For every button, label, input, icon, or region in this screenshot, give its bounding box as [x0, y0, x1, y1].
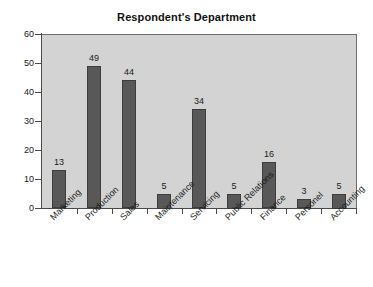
y-axis-tick — [35, 92, 41, 93]
y-axis-tick — [35, 179, 41, 180]
x-axis-tick — [216, 209, 217, 214]
x-axis-tick — [286, 209, 287, 214]
y-axis-tick-label: 40 — [24, 88, 34, 97]
bar — [122, 80, 136, 208]
y-axis-tick — [35, 150, 41, 151]
y-axis-tick-label: 10 — [24, 175, 34, 184]
y-axis-tick — [35, 208, 41, 209]
x-axis-tick — [77, 209, 78, 214]
y-axis-tick — [35, 121, 41, 122]
chart-title: Respondent's Department — [0, 11, 373, 23]
bar-value-label: 5 — [218, 182, 250, 191]
x-axis-tick — [182, 209, 183, 214]
bar-value-label: 5 — [148, 182, 180, 191]
bar-value-label: 5 — [323, 182, 355, 191]
y-axis-tick-label: 50 — [24, 59, 34, 68]
y-axis-tick-label: 60 — [24, 30, 34, 39]
x-axis-tick — [251, 209, 252, 214]
x-axis-tick — [321, 209, 322, 214]
x-axis-tick — [147, 209, 148, 214]
y-axis-tick-label: 0 — [29, 204, 34, 213]
y-axis-line — [41, 33, 42, 209]
y-axis-tick-label: 20 — [24, 146, 34, 155]
y-axis-tick-label: 30 — [24, 117, 34, 126]
bar-value-label: 16 — [253, 150, 285, 159]
bar — [87, 66, 101, 208]
y-axis-tick — [35, 63, 41, 64]
x-axis-tick — [112, 209, 113, 214]
bar-value-label: 44 — [113, 68, 145, 77]
bar-value-label: 49 — [78, 54, 110, 63]
bar-chart: Respondent's Department 0102030405060 13… — [0, 0, 373, 287]
y-axis-tick — [35, 34, 41, 35]
bar-value-label: 13 — [43, 158, 75, 167]
x-axis-tick — [356, 209, 357, 214]
bar — [192, 109, 206, 208]
bar-value-label: 34 — [183, 97, 215, 106]
